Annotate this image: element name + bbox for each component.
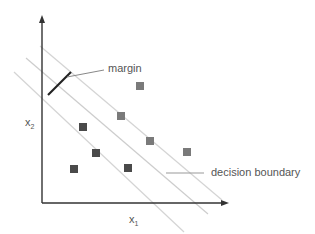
decision-boundary-line	[26, 58, 208, 214]
x-axis-label-sub: 1	[135, 220, 139, 227]
point-class-b	[146, 137, 154, 145]
point-class-a	[124, 164, 132, 172]
svm-diagram	[0, 0, 315, 234]
margin-bar	[48, 72, 71, 95]
point-class-b	[183, 148, 191, 156]
point-class-a	[70, 165, 78, 173]
x-axis-arrow-icon	[221, 200, 229, 206]
margin-label: margin	[108, 62, 142, 74]
y-axis-label-sub: 2	[31, 123, 35, 130]
point-class-a	[92, 149, 100, 157]
x-axis-label: x1	[129, 213, 138, 225]
point-class-a	[79, 123, 87, 131]
decision-boundary-label: decision boundary	[211, 166, 300, 178]
y-axis-label-main: x	[25, 116, 31, 128]
y-axis-arrow-icon	[39, 15, 45, 23]
x-axis-label-main: x	[129, 213, 135, 225]
point-class-b	[136, 82, 144, 90]
y-axis-label: x2	[25, 116, 34, 128]
point-class-b	[117, 112, 125, 120]
